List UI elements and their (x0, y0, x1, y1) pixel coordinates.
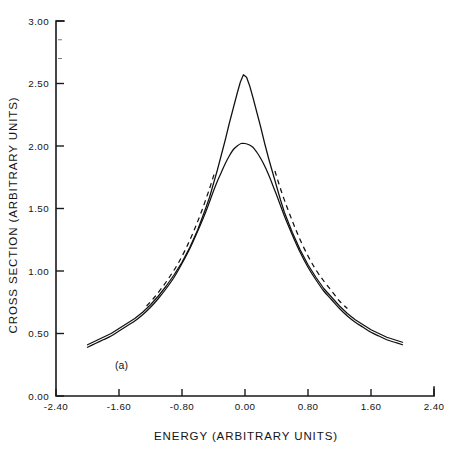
y-axis-title: CROSS SECTION (ARBITRARY UNITS) (7, 96, 19, 333)
y-tick-label: 2.50 (28, 78, 49, 89)
x-tick-label: -0.80 (170, 401, 194, 412)
y-tick-label: 1.50 (28, 203, 49, 214)
y-tick-label: 0.50 (28, 328, 49, 339)
x-tick-label: 2.40 (424, 401, 445, 412)
y-tick-label: 3.00 (28, 16, 49, 27)
panel-label: (a) (115, 359, 128, 371)
y-tick-label: 0.00 (28, 391, 49, 402)
x-axis-title: ENERGY (ARBITRARY UNITS) (154, 430, 338, 442)
x-tick-label: -1.60 (107, 401, 131, 412)
y-tick-label: 1.00 (28, 266, 49, 277)
y-tick-label: 2.00 (28, 141, 49, 152)
x-tick-label: 1.60 (361, 401, 382, 412)
x-tick-label: 0.80 (298, 401, 319, 412)
figure-background (0, 0, 456, 450)
x-tick-label: -2.40 (44, 401, 68, 412)
x-tick-label: 0.00 (235, 401, 256, 412)
chart-figure: -2.40-1.60-0.800.000.801.602.40 0.000.50… (0, 0, 456, 450)
